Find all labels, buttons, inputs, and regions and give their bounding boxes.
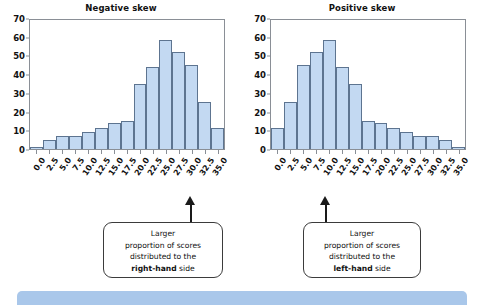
y-axis-tick-label: 20	[13, 108, 25, 118]
y-axis-tick-label: 40	[254, 70, 266, 80]
x-axis-tick-mark	[355, 150, 356, 154]
bar	[121, 121, 134, 149]
callout-line-4-bold: left-hand	[333, 264, 372, 273]
x-axis-tick-mark	[192, 150, 193, 154]
x-axis-tick-mark	[153, 150, 154, 154]
x-axis-tick-mark	[329, 150, 330, 154]
x-axis-tick-mark	[101, 150, 102, 154]
bar	[56, 136, 69, 149]
x-axis-tick-mark	[290, 150, 291, 154]
x-axis-tick-mark	[381, 150, 382, 154]
plot-area-negative-skew	[29, 19, 225, 150]
bar	[95, 128, 108, 149]
y-axis-tick-label: 60	[13, 33, 25, 43]
bar	[400, 132, 413, 149]
bar	[159, 40, 172, 149]
bar	[426, 136, 439, 149]
y-axis-tick-label: 70	[13, 14, 25, 24]
x-axis-tick-mark	[459, 150, 460, 154]
y-axis-tick-label: 30	[13, 89, 25, 99]
chart-panel-negative-skew: Negative skew 010203040506070 0.02.55.07…	[0, 0, 242, 200]
bar	[146, 67, 159, 149]
bar	[362, 121, 375, 149]
bottom-color-band	[17, 291, 467, 305]
callout-line-3: distributed to the	[104, 251, 222, 263]
bar	[108, 123, 121, 149]
y-axis-tick-label: 0	[19, 145, 25, 155]
callout-line-2: proportion of scores	[104, 240, 222, 252]
x-axis-tick-mark	[446, 150, 447, 154]
bar	[452, 147, 465, 149]
chart-panel-positive-skew: Positive skew 010203040506070 0.02.55.07…	[241, 0, 483, 200]
bar	[413, 136, 426, 149]
x-axis-tick-mark	[75, 150, 76, 154]
x-axis-tick-label: 2.5	[44, 156, 60, 173]
x-axis-tick-mark	[140, 150, 141, 154]
bar	[310, 52, 323, 149]
bar-series-negative-skew	[30, 20, 224, 149]
x-axis-tick-mark	[420, 150, 421, 154]
callout-line-4-rest: side	[373, 264, 391, 273]
y-axis-tick-label: 50	[254, 51, 266, 61]
x-axis-tick-label: 0.0	[272, 156, 288, 173]
callout-arrow-right	[320, 196, 331, 223]
x-axis-positive-skew: 0.02.55.07.510.012.515.017.520.022.525.0…	[270, 150, 466, 198]
callout-line-4-rest: side	[177, 264, 195, 273]
x-axis-tick-label: 0.0	[31, 156, 47, 173]
bar	[375, 123, 388, 149]
chart-title-positive-skew: Positive skew	[241, 3, 483, 13]
bar	[134, 84, 147, 150]
y-axis-tick-label: 60	[254, 33, 266, 43]
y-axis-tick-label: 50	[13, 51, 25, 61]
x-axis-tick-mark	[303, 150, 304, 154]
bar	[297, 65, 310, 149]
y-axis-tick-label: 0	[260, 145, 266, 155]
bar	[439, 140, 452, 149]
x-axis-negative-skew: 0.02.55.07.510.012.515.017.520.022.525.0…	[29, 150, 225, 198]
bar	[82, 132, 95, 149]
x-axis-tick-mark	[394, 150, 395, 154]
bar	[336, 67, 349, 149]
bar	[271, 128, 284, 149]
x-axis-tick-label: 2.5	[285, 156, 301, 173]
y-axis-negative-skew: 010203040506070	[0, 19, 29, 150]
callout-line-4: right-hand side	[104, 263, 222, 275]
callout-line-2: proportion of scores	[304, 240, 420, 252]
x-axis-tick-mark	[62, 150, 63, 154]
bar	[30, 147, 43, 149]
callout-line-1: Larger	[104, 228, 222, 240]
x-axis-tick-label: 5.0	[299, 156, 315, 173]
bar	[284, 102, 297, 149]
y-axis-tick-label: 40	[13, 70, 25, 80]
callout-line-4: left-hand side	[304, 263, 420, 275]
x-axis-tick-mark	[407, 150, 408, 154]
bar	[172, 52, 185, 149]
x-axis-tick-mark	[36, 150, 37, 154]
x-axis-tick-mark	[342, 150, 343, 154]
y-axis-tick-label: 10	[13, 126, 25, 136]
x-axis-tick-mark	[433, 150, 434, 154]
y-axis-tick-label: 70	[254, 14, 266, 24]
callout-line-1: Larger	[304, 228, 420, 240]
callout-right-hand-side: Larger proportion of scores distributed …	[103, 222, 223, 278]
bar	[198, 102, 211, 149]
x-axis-tick-mark	[88, 150, 89, 154]
bar	[185, 65, 198, 149]
x-axis-tick-mark	[166, 150, 167, 154]
callout-line-4-bold: right-hand	[131, 264, 176, 273]
x-axis-tick-mark	[205, 150, 206, 154]
bar	[349, 84, 362, 150]
x-axis-tick-mark	[368, 150, 369, 154]
x-axis-tick-mark	[127, 150, 128, 154]
x-axis-tick-mark	[218, 150, 219, 154]
callout-left-hand-side: Larger proportion of scores distributed …	[303, 222, 421, 278]
bar	[323, 40, 336, 149]
x-axis-tick-mark	[114, 150, 115, 154]
x-axis-tick-mark	[49, 150, 50, 154]
x-axis-tick-mark	[277, 150, 278, 154]
bar-series-positive-skew	[271, 20, 465, 149]
bar	[211, 128, 224, 149]
bar	[43, 140, 56, 149]
y-axis-tick-label: 20	[254, 108, 266, 118]
chart-title-negative-skew: Negative skew	[0, 3, 242, 13]
